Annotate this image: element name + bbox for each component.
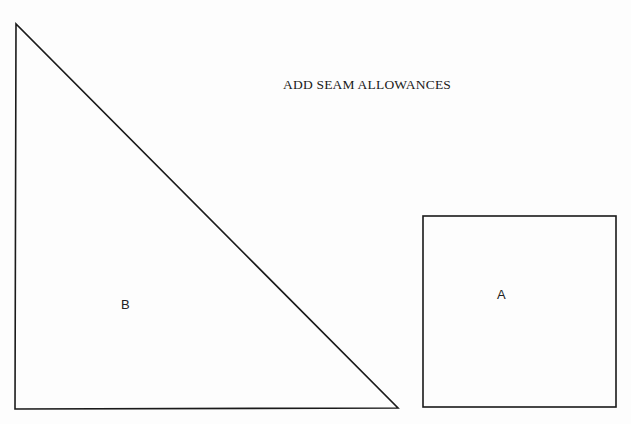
pattern-drawing [0,0,631,424]
piece-label-a: A [497,287,506,302]
pattern-sheet: ADD SEAM ALLOWANCES B A [0,0,631,424]
piece-label-b: B [121,297,130,312]
instruction-title: ADD SEAM ALLOWANCES [283,77,451,93]
square-piece-a [423,216,616,407]
